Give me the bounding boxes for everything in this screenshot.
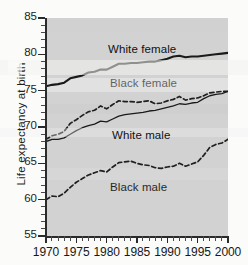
x-tick-major [76, 236, 77, 243]
x-tick-minor [149, 236, 150, 241]
y-tick-label: 55 [0, 228, 37, 240]
x-tick-minor [130, 236, 131, 241]
y-tick-minor [41, 105, 45, 106]
scan-fade-overlay [8, 52, 22, 78]
x-tick-minor [112, 236, 113, 241]
series-label-white-male: White male [112, 129, 171, 141]
y-tick-minor [41, 177, 45, 178]
x-tick-minor [209, 236, 210, 241]
y-tick-minor [41, 47, 45, 48]
x-tick-minor [118, 236, 119, 241]
y-tick-minor [41, 61, 45, 62]
y-tick-minor [41, 25, 45, 26]
x-tick-major [167, 236, 168, 243]
y-tick-minor [41, 228, 45, 229]
y-tick-major [38, 235, 45, 236]
y-tick-minor [41, 185, 45, 186]
x-tick-minor [203, 236, 204, 241]
x-tick-minor [88, 236, 89, 241]
y-tick-minor [41, 76, 45, 77]
x-tick-minor [100, 236, 101, 241]
y-tick-minor [41, 214, 45, 215]
series-label-black-female: Black female [110, 77, 177, 89]
x-tick-major [197, 236, 198, 243]
x-tick-minor [51, 236, 52, 241]
x-tick-minor [215, 236, 216, 241]
x-tick-major [45, 236, 46, 243]
x-tick-minor [124, 236, 125, 241]
x-tick-minor [179, 236, 180, 241]
y-tick-major [38, 126, 45, 127]
y-tick-minor [41, 83, 45, 84]
x-tick-major [227, 236, 228, 243]
y-tick-major [38, 90, 45, 91]
y-tick-minor [41, 192, 45, 193]
y-tick-minor [41, 221, 45, 222]
y-tick-major [38, 199, 45, 200]
y-axis-line [45, 18, 47, 237]
x-tick-minor [94, 236, 95, 241]
y-tick-major [38, 17, 45, 18]
x-tick-minor [155, 236, 156, 241]
x-tick-minor [64, 236, 65, 241]
y-tick-minor [41, 112, 45, 113]
y-tick-major [38, 163, 45, 164]
x-tick-minor [142, 236, 143, 241]
x-tick-minor [58, 236, 59, 241]
series-label-black-male: Black male [110, 181, 167, 193]
x-tick-minor [191, 236, 192, 241]
y-tick-major [38, 54, 45, 55]
y-tick-minor [41, 148, 45, 149]
y-tick-minor [41, 134, 45, 135]
x-tick-minor [173, 236, 174, 241]
x-tick-minor [185, 236, 186, 241]
y-tick-minor [41, 68, 45, 69]
series-label-white-female: White female [108, 43, 176, 55]
y-tick-minor [41, 39, 45, 40]
y-tick-minor [41, 206, 45, 207]
y-tick-minor [41, 32, 45, 33]
x-tick-major [106, 236, 107, 243]
x-tick-minor [82, 236, 83, 241]
x-tick-minor [161, 236, 162, 241]
y-tick-minor [41, 119, 45, 120]
y-tick-minor [41, 170, 45, 171]
life-expectancy-chart: 55606570758085 1970197519801985199019952… [0, 0, 248, 265]
x-tick-label: 2000 [208, 245, 248, 259]
y-tick-minor [41, 97, 45, 98]
y-tick-label: 85 [0, 10, 37, 22]
y-tick-minor [41, 156, 45, 157]
x-tick-minor [221, 236, 222, 241]
x-tick-major [136, 236, 137, 243]
y-tick-minor [41, 141, 45, 142]
x-tick-minor [70, 236, 71, 241]
